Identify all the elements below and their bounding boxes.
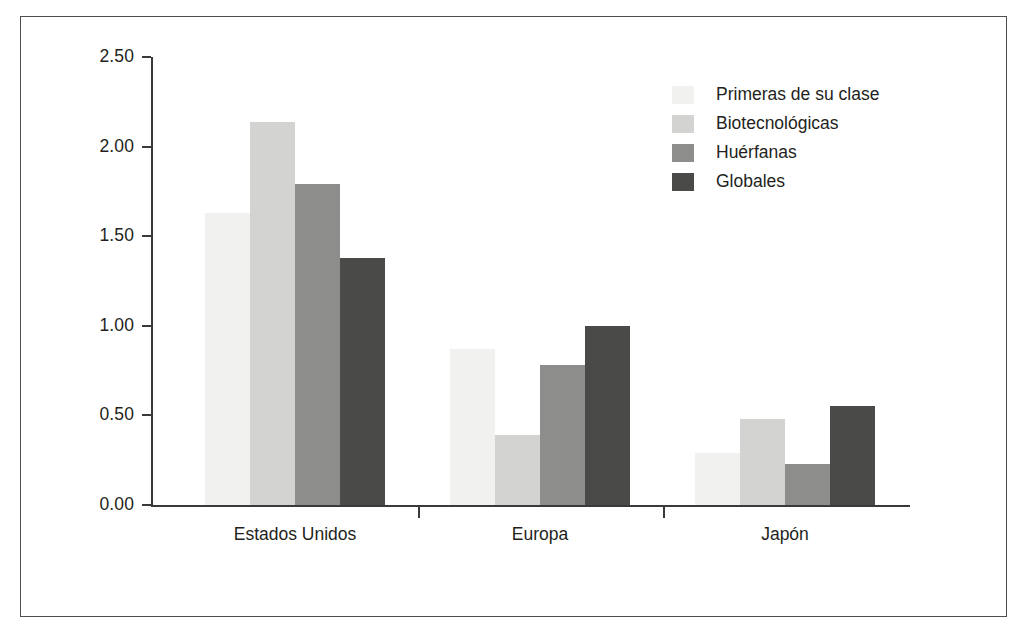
chart-legend: Primeras de su claseBiotecnológicasHuérf…: [672, 80, 952, 196]
bar: [495, 435, 540, 505]
legend-color-swatch: [672, 86, 694, 104]
x-axis-line: [151, 505, 910, 507]
legend-item: Biotecnológicas: [672, 109, 952, 138]
y-axis-tick-mark: [142, 504, 151, 506]
legend-item-label: Globales: [716, 172, 785, 191]
bar-group: [205, 57, 385, 505]
legend-color-swatch: [672, 115, 694, 133]
bar: [785, 464, 830, 505]
bar: [250, 122, 295, 505]
y-axis-tick-mark: [142, 146, 151, 148]
x-axis-tick-mark: [663, 507, 665, 518]
y-axis-line: [151, 57, 153, 506]
x-axis-category-label: Japón: [635, 524, 935, 545]
y-axis-tick-label: 1.50: [78, 227, 134, 245]
y-axis-tick-label: 2.50: [78, 48, 134, 66]
bar: [295, 184, 340, 505]
bar-chart-figure: 0.000.501.001.502.002.50 Estados UnidosE…: [0, 0, 1021, 635]
y-axis-tick-label: 2.00: [78, 138, 134, 156]
bar: [340, 258, 385, 505]
legend-item-label: Primeras de su clase: [716, 85, 879, 104]
legend-item-label: Huérfanas: [716, 143, 797, 162]
y-axis-tick-mark: [142, 235, 151, 237]
legend-color-swatch: [672, 173, 694, 191]
bar: [740, 419, 785, 505]
bar-group: [450, 57, 630, 505]
legend-item: Primeras de su clase: [672, 80, 952, 109]
x-axis-tick-mark: [418, 507, 420, 518]
y-axis-tick-mark: [142, 325, 151, 327]
bar: [450, 349, 495, 505]
y-axis-tick-label: 0.00: [78, 496, 134, 514]
legend-item: Globales: [672, 167, 952, 196]
y-axis-tick-mark: [142, 414, 151, 416]
bar: [830, 406, 875, 505]
bar: [540, 365, 585, 505]
bar: [695, 453, 740, 505]
bar: [205, 213, 250, 505]
y-axis-tick-mark: [142, 56, 151, 58]
legend-item: Huérfanas: [672, 138, 952, 167]
legend-item-label: Biotecnológicas: [716, 114, 839, 133]
y-axis-tick-label: 0.50: [78, 406, 134, 424]
legend-color-swatch: [672, 144, 694, 162]
plot-area: 0.000.501.001.502.002.50 Estados UnidosE…: [0, 0, 1021, 635]
bar: [585, 326, 630, 505]
y-axis-tick-label: 1.00: [78, 317, 134, 335]
